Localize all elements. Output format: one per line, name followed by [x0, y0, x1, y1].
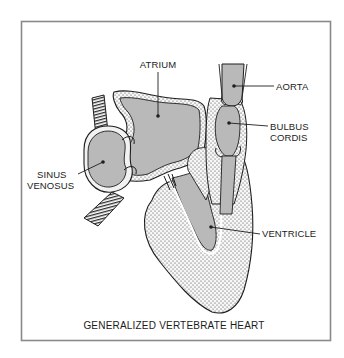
- label-atrium: ATRIUM: [140, 59, 176, 70]
- label-bulbus: BULBUS: [270, 121, 309, 132]
- diagram-figure: ATRIUM AORTA BULBUS CORDIS SINUS VENOSUS…: [0, 0, 344, 358]
- label-aorta: AORTA: [276, 81, 309, 92]
- label-cordis: CORDIS: [270, 132, 308, 143]
- bulbus-cordis-chamber: [215, 106, 240, 156]
- label-sinus: SINUS: [37, 169, 67, 180]
- sinus-venosus-chamber: [88, 131, 126, 187]
- label-ventricle: VENTRICLE: [262, 228, 316, 239]
- figure-caption: GENERALIZED VERTEBRATE HEART: [83, 320, 264, 331]
- heart-diagram-svg: ATRIUM AORTA BULBUS CORDIS SINUS VENOSUS…: [0, 0, 344, 358]
- label-venosus: VENOSUS: [27, 180, 74, 191]
- lower-vein-tube: [84, 192, 124, 226]
